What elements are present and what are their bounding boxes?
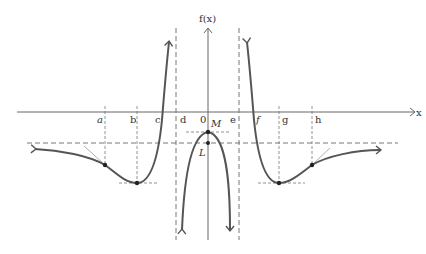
label-l: L bbox=[198, 147, 206, 158]
label-e: e bbox=[230, 114, 236, 125]
x-axis-label: x bbox=[416, 107, 422, 118]
y-axis-label: f(x) bbox=[199, 13, 216, 24]
label-d: d bbox=[180, 114, 187, 125]
max-point-m bbox=[206, 130, 210, 134]
curve-middle-branch bbox=[182, 132, 230, 230]
min-point-b bbox=[135, 181, 139, 185]
label-m: M bbox=[210, 118, 222, 129]
min-point-g bbox=[277, 181, 281, 185]
inflection-point-h bbox=[310, 163, 314, 167]
origin-label: 0 bbox=[200, 114, 206, 125]
inflection-tangent-right bbox=[313, 148, 330, 164]
label-c: c bbox=[155, 114, 161, 125]
inflection-point-a bbox=[103, 163, 107, 167]
inflection-tangent-left bbox=[84, 146, 104, 164]
function-graph: f(x) x a b c d 0 M e f g h L bbox=[0, 0, 426, 254]
label-h: h bbox=[315, 114, 322, 125]
point-l bbox=[206, 141, 210, 145]
label-g: g bbox=[282, 114, 289, 125]
label-a: a bbox=[97, 114, 103, 125]
label-b: b bbox=[130, 114, 136, 125]
label-f: f bbox=[255, 114, 262, 125]
